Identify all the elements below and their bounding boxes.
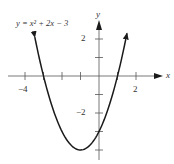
y-tick-label-neg2: −2 [76, 108, 86, 117]
y-axis-arrow-icon [96, 20, 102, 30]
x-axis [8, 72, 163, 80]
equation-label: y = x² + 2x − 3 [16, 19, 68, 28]
y-axis-label: y [96, 10, 100, 19]
parabola-curve [35, 33, 127, 150]
x-tick-label-neg4: −4 [18, 85, 28, 94]
x-axis-arrow-icon [154, 73, 163, 79]
x-tick-label-2: 2 [133, 85, 138, 94]
x-axis-label: x [166, 71, 170, 80]
y-axis [95, 20, 103, 160]
y-tick-label-2: 2 [81, 34, 86, 43]
